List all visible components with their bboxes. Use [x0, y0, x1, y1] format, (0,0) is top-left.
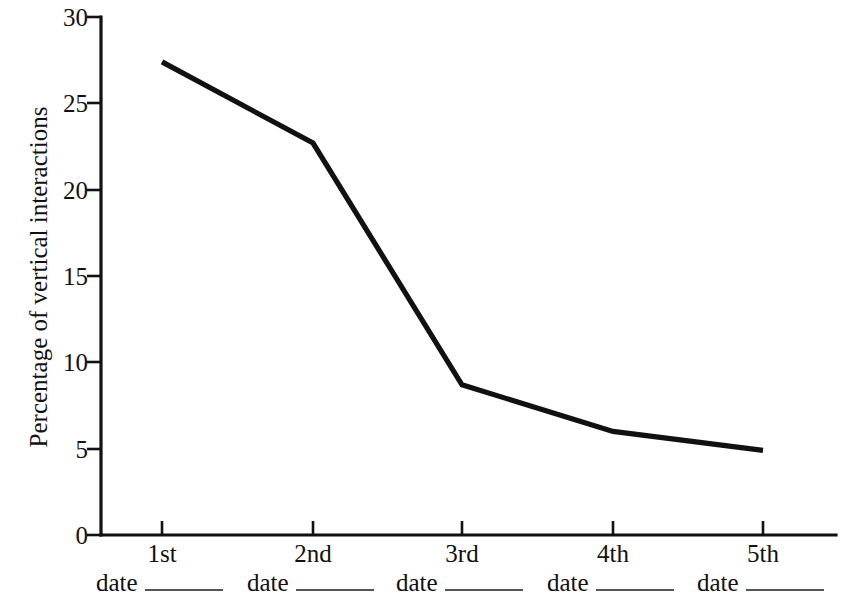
date-blank-field-4[interactable]: date — [547, 570, 674, 596]
date-label-2: date — [247, 570, 289, 596]
date-label-5: date — [697, 570, 739, 596]
y-axis-title: Percentage of vertical interactions — [26, 67, 52, 487]
date-underline-4[interactable] — [596, 575, 674, 591]
date-blank-field-5[interactable]: date — [697, 570, 824, 596]
y-tick-label-20: 20 — [63, 178, 88, 203]
y-tick-label-25: 25 — [63, 91, 88, 116]
date-label-4: date — [547, 570, 589, 596]
chart-canvas — [0, 0, 846, 610]
date-blank-field-3[interactable]: date — [396, 570, 523, 596]
y-tick-label-10: 10 — [63, 350, 88, 375]
x-tick-label-1st: 1st — [102, 541, 222, 567]
x-tick-label-2nd: 2nd — [253, 541, 373, 567]
date-underline-5[interactable] — [746, 575, 824, 591]
date-underline-2[interactable] — [296, 575, 374, 591]
x-tick-label-3rd: 3rd — [402, 541, 522, 567]
y-tick-label-30: 30 — [63, 5, 88, 30]
y-tick-label-0-wrap: 0 — [38, 523, 88, 548]
data-series-line — [162, 62, 763, 451]
date-label-3: date — [396, 570, 438, 596]
x-axis-ticks — [162, 521, 763, 535]
y-axis-ticks — [87, 17, 101, 535]
date-blank-field-1[interactable]: date — [96, 570, 223, 596]
y-tick-label-15: 15 — [63, 264, 88, 289]
y-tick-label-30-wrap: 30 — [38, 5, 88, 30]
x-tick-label-5th: 5th — [703, 541, 823, 567]
y-tick-label-5: 5 — [76, 437, 89, 462]
x-tick-label-4th: 4th — [553, 541, 673, 567]
date-underline-1[interactable] — [145, 575, 223, 591]
date-underline-3[interactable] — [445, 575, 523, 591]
date-label-1: date — [96, 570, 138, 596]
line-chart: 30 25 20 15 10 5 0 1st 2nd 3rd 4th 5th d… — [0, 0, 846, 610]
y-tick-label-0: 0 — [76, 523, 89, 548]
date-blank-field-2[interactable]: date — [247, 570, 374, 596]
